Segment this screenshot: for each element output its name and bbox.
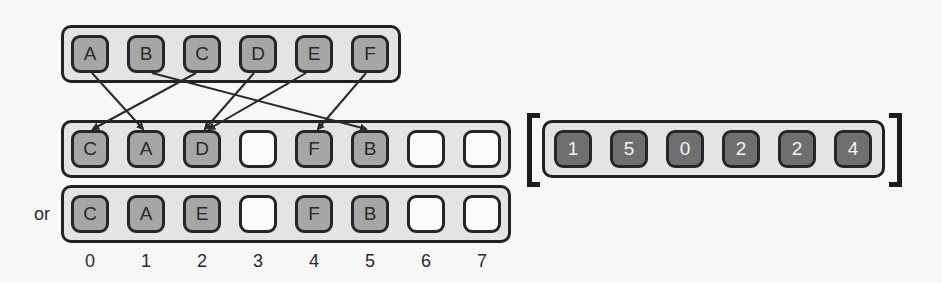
hash-value-4: 2 (778, 130, 816, 168)
table1-slot-0: C (71, 130, 109, 168)
index-label-0: 0 (71, 251, 109, 272)
source-keys-container (61, 25, 401, 83)
right-bracket (889, 113, 902, 187)
or-label: or (34, 204, 50, 225)
index-label-4: 4 (295, 251, 333, 272)
table1-slot-2: D (183, 130, 221, 168)
table2-slot-6 (407, 195, 445, 233)
table2-slot-7 (463, 195, 501, 233)
left-bracket (527, 113, 540, 187)
table2-slot-3 (239, 195, 277, 233)
hash-value-3: 2 (722, 130, 760, 168)
index-label-1: 1 (127, 251, 165, 272)
index-label-2: 2 (183, 251, 221, 272)
table1-slot-7 (463, 130, 501, 168)
hash-value-2: 0 (666, 130, 704, 168)
source-key-e: E (295, 35, 333, 73)
source-key-c: C (183, 35, 221, 73)
table2-slot-0: C (71, 195, 109, 233)
table1-slot-1: A (127, 130, 165, 168)
background-bleed-text (735, 4, 739, 21)
table2-slot-5: B (351, 195, 389, 233)
index-label-6: 6 (407, 251, 445, 272)
table1-slot-5: B (351, 130, 389, 168)
hash-value-1: 5 (610, 130, 648, 168)
hash-value-5: 4 (834, 130, 872, 168)
hash-value-0: 1 (554, 130, 592, 168)
source-key-f: F (351, 35, 389, 73)
table1-slot-6 (407, 130, 445, 168)
source-key-a: A (71, 35, 109, 73)
table1-slot-3 (239, 130, 277, 168)
table2-slot-4: F (295, 195, 333, 233)
source-key-b: B (127, 35, 165, 73)
index-label-5: 5 (351, 251, 389, 272)
index-label-7: 7 (463, 251, 501, 272)
table1-slot-4: F (295, 130, 333, 168)
table2-slot-1: A (127, 195, 165, 233)
table2-slot-2: E (183, 195, 221, 233)
source-key-d: D (239, 35, 277, 73)
index-label-3: 3 (239, 251, 277, 272)
